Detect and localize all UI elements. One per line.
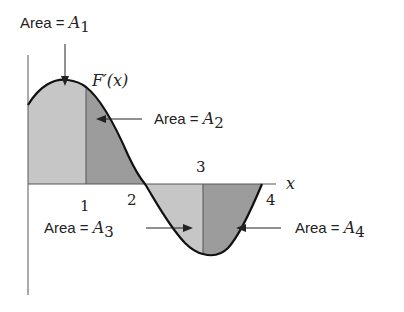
region-a4 [203,184,262,255]
tick-1: 1 [80,197,90,215]
region-a1 [28,80,86,184]
label-a2: Area = A2 [154,109,224,132]
x-axis-label: x [286,174,295,193]
tick-3: 3 [196,158,206,176]
tick-2: 2 [127,191,137,209]
label-a1: Area = A1 [20,13,90,36]
label-a3: Area = A3 [44,218,114,241]
curve-label: F′(x) [91,71,128,90]
label-a4: Area = A4 [295,218,365,241]
region-a3 [145,184,203,254]
area-diagram: Area = A1 F′(x) Area = A2 Area = A3 Area… [0,0,404,312]
tick-4: 4 [266,191,276,209]
